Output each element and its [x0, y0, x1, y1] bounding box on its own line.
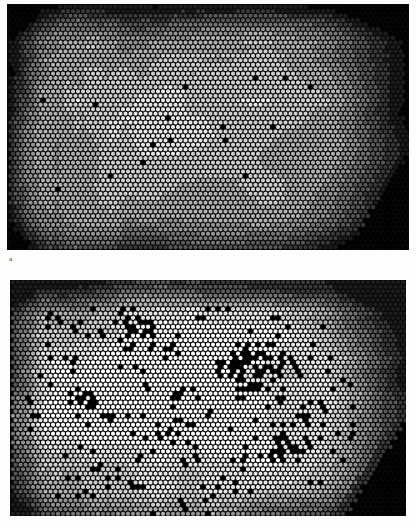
figure-container: a: [0, 0, 416, 528]
panel-a-hexagonal-map: [7, 4, 409, 250]
panel-b-canvas: [10, 280, 406, 516]
panel-a-label: a: [9, 255, 12, 263]
panel-a-canvas: [7, 4, 409, 250]
panel-b-hexagonal-map: [10, 280, 406, 516]
